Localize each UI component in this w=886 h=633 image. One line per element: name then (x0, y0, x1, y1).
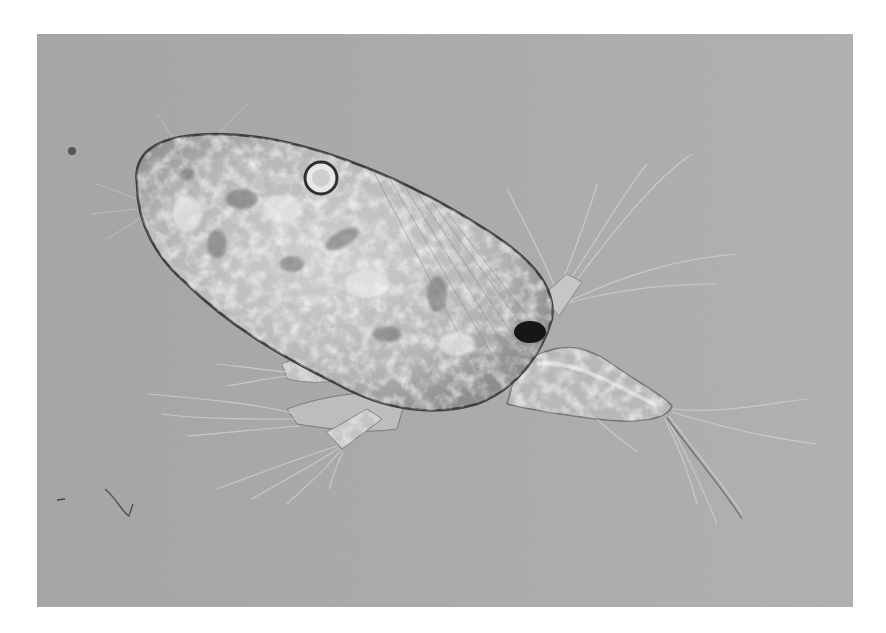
micrograph-photo: micrograph of a crustacean larva (naupli… (37, 34, 853, 607)
